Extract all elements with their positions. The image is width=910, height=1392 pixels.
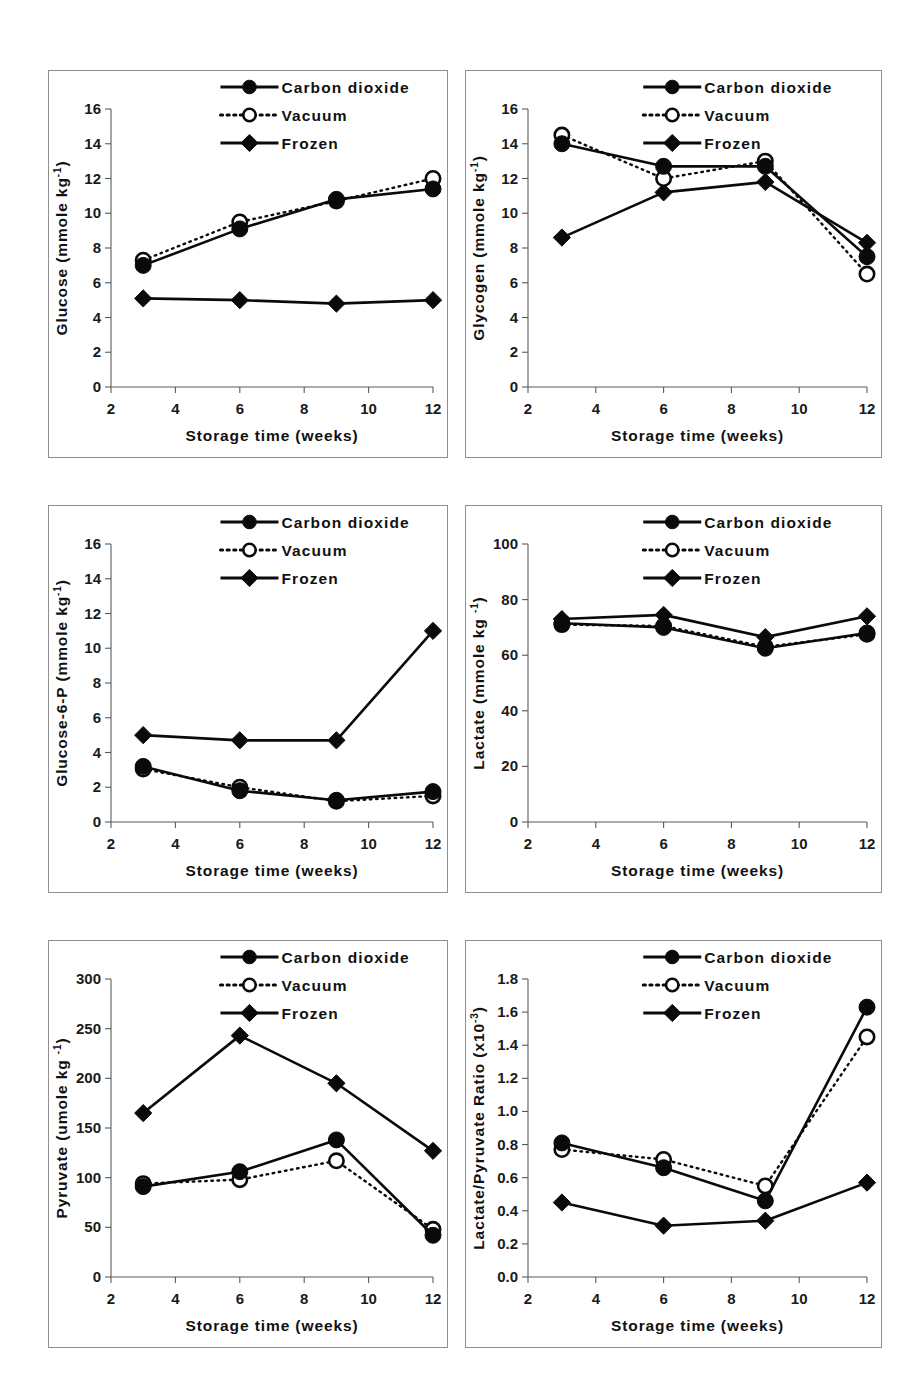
legend-item-vacuum: Vacuum (220, 107, 347, 124)
series-vacuum (555, 1030, 874, 1193)
y-tick-label: 1.6 (497, 1003, 518, 1020)
y-axis-title: Glycogen (mmole kg-1) (469, 155, 487, 340)
chart-legend: Carbon dioxideVacuumFrozen (643, 514, 832, 587)
y-tick-label: 6 (510, 274, 518, 291)
y-tick-label: 0 (93, 378, 101, 395)
axes-group: 05010015020025030024681012 (76, 970, 441, 1307)
data-point-marker (425, 784, 441, 800)
x-axis-title: Storage time (weeks) (611, 1317, 784, 1334)
chart-legend: Carbon dioxideVacuumFrozen (643, 949, 832, 1022)
open-circle-icon (243, 979, 255, 991)
chart-panel-glucose-6-p: 024681012141624681012Storage time (weeks… (48, 505, 448, 893)
chart-panel-pyruvate: 05010015020025030024681012Storage time (… (48, 940, 448, 1348)
y-tick-label: 0 (93, 1268, 101, 1285)
x-tick-label: 12 (425, 835, 442, 852)
filled-diamond-icon (664, 569, 681, 586)
chart-legend: Carbon dioxideVacuumFrozen (643, 79, 832, 152)
legend-item-frozen: Frozen (220, 1004, 338, 1021)
filled-circle-icon (665, 950, 679, 964)
y-tick-label: 14 (84, 135, 101, 152)
x-axis-title: Storage time (weeks) (185, 862, 358, 879)
chart-panel-glucose: 024681012141624681012Storage time (weeks… (48, 70, 448, 458)
x-tick-label: 6 (236, 835, 244, 852)
y-tick-label: 6 (93, 709, 101, 726)
data-point-marker (554, 1135, 570, 1151)
y-tick-label: 1.0 (497, 1102, 518, 1119)
series-carbon-dioxide (554, 999, 875, 1209)
data-point-marker (757, 173, 774, 190)
open-circle-icon (666, 544, 678, 556)
series-carbon-dioxide (135, 1132, 441, 1243)
data-point-marker (135, 758, 151, 774)
x-tick-label: 8 (727, 835, 735, 852)
legend-item-carbon-dioxide: Carbon dioxide (643, 949, 832, 966)
data-point-marker (328, 1075, 345, 1092)
series-carbon-dioxide (554, 136, 875, 265)
y-tick-label: 6 (93, 274, 101, 291)
y-tick-label: 300 (76, 970, 101, 987)
series-frozen (135, 290, 442, 312)
data-point-marker (135, 290, 152, 307)
x-tick-label: 10 (791, 835, 808, 852)
y-tick-label: 2 (510, 343, 518, 360)
data-point-marker (554, 615, 570, 631)
series-carbon-dioxide (135, 181, 441, 273)
x-axis-title: Storage time (weeks) (185, 1317, 358, 1334)
data-point-marker (328, 295, 345, 312)
y-axis-title: Pyruvate (umole kg -1) (52, 1037, 70, 1218)
legend-label: Vacuum (281, 542, 347, 559)
data-point-marker (231, 292, 248, 309)
y-tick-label: 12 (84, 170, 101, 187)
legend-item-frozen: Frozen (220, 134, 338, 151)
legend-item-carbon-dioxide: Carbon dioxide (643, 79, 832, 96)
x-tick-label: 12 (425, 400, 442, 417)
chart-legend: Carbon dioxideVacuumFrozen (220, 79, 409, 152)
data-point-marker (858, 608, 875, 625)
y-tick-label: 0 (510, 813, 518, 830)
x-tick-label: 12 (425, 1290, 442, 1307)
y-tick-label: 14 (501, 135, 518, 152)
legend-item-vacuum: Vacuum (220, 542, 347, 559)
y-tick-label: 0 (510, 378, 518, 395)
data-point-marker (231, 732, 248, 749)
legend-item-vacuum: Vacuum (220, 977, 347, 994)
chart-legend: Carbon dioxideVacuumFrozen (220, 514, 409, 587)
legend-item-carbon-dioxide: Carbon dioxide (220, 514, 409, 531)
x-tick-label: 6 (236, 1290, 244, 1307)
series-carbon-dioxide (554, 615, 875, 656)
y-tick-label: 100 (76, 1169, 101, 1186)
y-tick-label: 200 (76, 1069, 101, 1086)
x-tick-label: 10 (360, 835, 377, 852)
y-tick-label: 16 (501, 100, 518, 117)
x-tick-label: 4 (171, 400, 180, 417)
x-tick-label: 8 (727, 1290, 735, 1307)
y-tick-label: 4 (93, 309, 102, 326)
x-tick-label: 8 (300, 400, 308, 417)
filled-diamond-icon (664, 1004, 681, 1021)
data-point-marker (232, 221, 248, 237)
y-tick-label: 1.8 (497, 970, 518, 987)
data-point-marker (135, 727, 152, 744)
x-tick-label: 12 (859, 835, 876, 852)
y-tick-label: 0.2 (497, 1235, 518, 1252)
data-point-marker (328, 792, 344, 808)
data-point-marker (135, 257, 151, 273)
y-tick-label: 50 (84, 1218, 101, 1235)
legend-label: Frozen (704, 570, 761, 587)
data-point-marker (859, 249, 875, 265)
x-tick-label: 2 (524, 835, 532, 852)
data-point-marker (135, 1179, 151, 1195)
data-point-marker (425, 181, 441, 197)
series-vacuum (136, 171, 440, 267)
y-tick-label: 1.4 (497, 1036, 519, 1053)
data-point-marker (425, 1227, 441, 1243)
filled-circle-icon (665, 515, 679, 529)
open-circle-icon (243, 109, 255, 121)
axes-group: 0.00.20.40.60.81.01.21.41.61.824681012 (497, 970, 875, 1307)
x-tick-label: 10 (360, 400, 377, 417)
series-frozen (553, 173, 875, 251)
legend-item-carbon-dioxide: Carbon dioxide (220, 79, 409, 96)
y-tick-label: 12 (84, 605, 101, 622)
y-tick-label: 0.0 (497, 1268, 518, 1285)
y-tick-label: 0 (93, 813, 101, 830)
